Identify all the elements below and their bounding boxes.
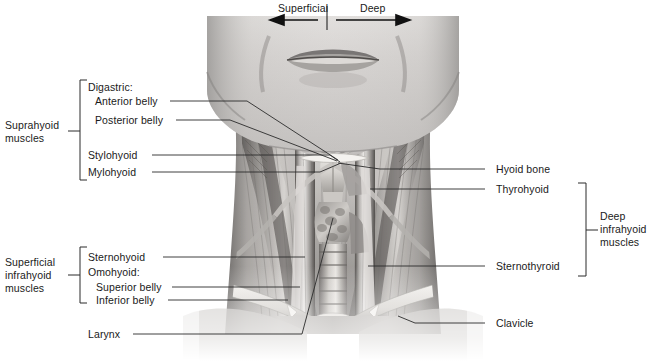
- right-leader-lines: [0, 0, 654, 361]
- figure-canvas: Superficial Deep Suprahyoid muscles Supe…: [0, 0, 654, 361]
- label-hyoid-bone: Hyoid bone: [496, 163, 550, 176]
- label-clavicle: Clavicle: [496, 317, 534, 330]
- label-sternothyroid: Sternothyroid: [496, 260, 560, 273]
- label-thyrohyoid: Thyrohyoid: [496, 183, 549, 196]
- leader-clavicle: [398, 316, 485, 323]
- leader-hyoid-bone: [338, 163, 485, 169]
